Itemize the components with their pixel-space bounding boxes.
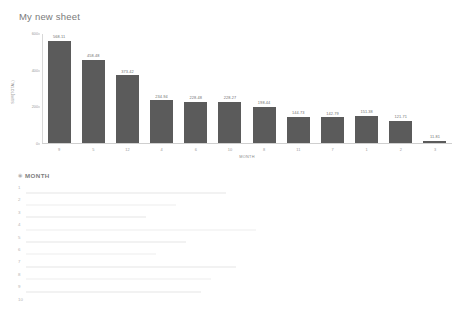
row-number: 1 [18, 185, 20, 190]
bar-slot: 11.81 [418, 34, 452, 143]
bar-slot: 198.44 [247, 34, 281, 143]
x-axis-tick-label: 4 [145, 147, 179, 152]
y-axis-tick-mark [38, 144, 40, 145]
row-number: 8 [18, 272, 20, 277]
table-row[interactable]: 8 [0, 272, 464, 284]
x-axis-tick-label: 9 [42, 147, 76, 152]
row-content-placeholder [26, 291, 201, 293]
bar[interactable] [48, 41, 71, 144]
row-number: 5 [18, 235, 20, 240]
bar-slot: 234.94 [145, 34, 179, 143]
number-type-icon: ◉ [18, 173, 22, 178]
x-axis-tick-label: 6 [179, 147, 213, 152]
bar-value-label: 228.27 [224, 95, 237, 100]
row-content-placeholder [26, 278, 211, 280]
bar-value-label: 11.81 [430, 134, 440, 139]
bar[interactable] [116, 75, 139, 143]
bar-value-label: 373.42 [121, 69, 134, 74]
bar[interactable] [184, 102, 207, 144]
row-number: 2 [18, 197, 20, 202]
bar-value-label: 458.48 [87, 53, 100, 58]
x-axis-tick-label: 2 [384, 147, 418, 152]
bar-value-label: 144.73 [292, 110, 305, 115]
bar-value-label: 142.79 [326, 111, 339, 116]
bar-series: 568.11458.48373.42234.94228.48228.27198.… [42, 34, 452, 143]
table-row[interactable]: 5 [0, 235, 464, 247]
row-content-placeholder [26, 204, 176, 206]
bar[interactable] [150, 100, 173, 143]
y-axis-tick-mark [38, 70, 40, 71]
bar-slot: 568.11 [42, 34, 76, 143]
bar[interactable] [355, 116, 378, 144]
y-axis-tick-mark [38, 107, 40, 108]
bar-slot: 151.38 [350, 34, 384, 143]
bar-chart: SUM(TOTAL) 0200400600 568.11458.48373.42… [0, 28, 464, 164]
table-row[interactable]: 9 [0, 284, 464, 296]
row-number: 6 [18, 247, 20, 252]
bar[interactable] [321, 117, 344, 143]
row-content-placeholder [26, 253, 156, 255]
bar-slot: 228.48 [179, 34, 213, 143]
table-header-row[interactable]: ◉ MONTH [18, 172, 50, 179]
bar-value-label: 151.38 [360, 109, 373, 114]
bar-value-label: 121.71 [395, 114, 408, 119]
x-axis-line [42, 143, 452, 144]
row-content-placeholder [26, 241, 186, 243]
table-row[interactable]: 2 [0, 197, 464, 209]
bar[interactable] [423, 141, 446, 143]
bar-value-label: 568.11 [53, 34, 65, 39]
table-row[interactable]: 4 [0, 222, 464, 234]
x-axis-tick-label: 3 [418, 147, 452, 152]
row-number: 4 [18, 222, 20, 227]
bar-slot: 458.48 [76, 34, 110, 143]
x-axis-tick-label: 7 [315, 147, 349, 152]
row-content-placeholder [26, 266, 236, 268]
bar[interactable] [389, 121, 412, 143]
bar-slot: 144.73 [281, 34, 315, 143]
bar[interactable] [218, 102, 241, 143]
table-body: 12345678910 [0, 185, 464, 309]
row-number: 9 [18, 284, 20, 289]
x-axis-tick-label: 12 [110, 147, 144, 152]
table-row[interactable]: 7 [0, 259, 464, 271]
x-axis-tick-label: 8 [247, 147, 281, 152]
y-axis-ticks: 0200400600 [24, 34, 40, 144]
bar-slot: 373.42 [110, 34, 144, 143]
row-content-placeholder [26, 216, 146, 218]
bar-slot: 142.79 [315, 34, 349, 143]
row-number: 3 [18, 210, 20, 215]
bar[interactable] [82, 60, 105, 143]
row-content-placeholder [26, 192, 226, 194]
row-number: 7 [18, 259, 20, 264]
plot-area: 568.11458.48373.42234.94228.48228.27198.… [42, 34, 452, 144]
x-axis-tick-labels: 951246108117123 [42, 147, 452, 152]
bar-value-label: 234.94 [155, 94, 168, 99]
x-axis-tick-label: 1 [350, 147, 384, 152]
data-table: ◉ MONTH 12345678910 [0, 172, 464, 316]
y-axis-tick-mark [38, 34, 40, 35]
row-content-placeholder [26, 229, 256, 231]
page-title: My new sheet [19, 11, 80, 22]
x-axis-title: MONTH [42, 155, 452, 159]
column-header-month[interactable]: MONTH [25, 172, 50, 179]
x-axis-tick-label: 11 [281, 147, 315, 152]
bar-value-label: 198.44 [258, 100, 271, 105]
bar[interactable] [287, 117, 310, 143]
table-row[interactable]: 6 [0, 247, 464, 259]
table-row[interactable]: 1 [0, 185, 464, 197]
bar-slot: 228.27 [213, 34, 247, 143]
bar-value-label: 228.48 [190, 95, 203, 100]
y-axis-title: SUM(TOTAL) [11, 62, 15, 122]
bar[interactable] [253, 107, 276, 143]
table-row[interactable]: 10 [0, 297, 464, 309]
table-row[interactable]: 3 [0, 210, 464, 222]
x-axis-tick-label: 5 [76, 147, 110, 152]
x-axis-tick-label: 10 [213, 147, 247, 152]
row-number: 10 [18, 297, 23, 302]
bar-slot: 121.71 [384, 34, 418, 143]
